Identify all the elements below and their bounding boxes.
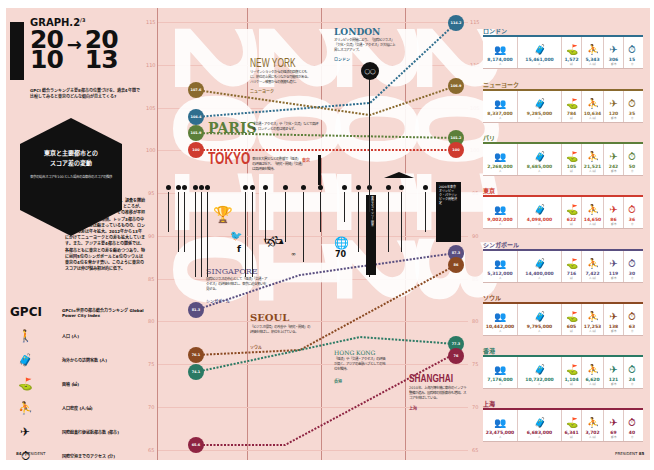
population-icon: 👥 [494, 97, 506, 111]
city-panel-tokyo: 東京 👥9,002,000人 🧳4,098,000人 ⛳622㎢ ⛹14,650… [483, 186, 643, 229]
city-jp-hongkong: 香港 [334, 378, 342, 384]
timeline-event[interactable] [243, 185, 248, 277]
city-title-shanghai: SHANGHAI [409, 372, 453, 384]
city-jp-seoul: ソウル [250, 344, 262, 350]
bubble-paris-2010[interactable]: 101.9 [188, 125, 204, 141]
world-cup-trophy-icon: 🏆 [213, 205, 233, 224]
bubble-newyork-2010[interactable]: 107.6 [188, 82, 204, 98]
population-icon: 👥 [494, 310, 506, 324]
bubble-london-2013[interactable]: 114.2 [448, 15, 464, 31]
airplane-icon: ✈ [609, 43, 617, 57]
panel-city-name: ソウル [483, 293, 643, 302]
timeline-event[interactable] [205, 185, 210, 277]
density-icon: ⛹ [587, 150, 599, 164]
timeline-event[interactable] [283, 185, 288, 242]
area-flag-icon: ⛳ [566, 97, 578, 111]
city-panel-seoul: ソウル 👥10,442,000人 🧳9,795,000人 ⛳605㎢ ⛹17,2… [483, 293, 643, 336]
unit: 人 [538, 329, 541, 333]
unit: 人/㎢ [589, 222, 596, 226]
city-panel-shanghai: 上海 👥23,475,000人 🧳6,683,000人 ⛳6,341㎢ ⛹3,7… [483, 399, 643, 442]
unit: 人/㎢ [589, 435, 596, 439]
population-icon: 👥 [494, 203, 506, 217]
timeline-event[interactable] [386, 185, 391, 252]
panel-city-name: シンガポール [483, 240, 643, 249]
timeline-event[interactable] [250, 185, 255, 277]
bubble-shanghai-2013[interactable]: 76 [448, 348, 464, 364]
timeline-event[interactable] [176, 185, 181, 252]
density-icon: ⛹ [587, 257, 599, 271]
timeline-event[interactable] [423, 185, 428, 232]
page-number-left: 84 PRESIDENT [16, 451, 45, 456]
city-desc-singapore: 国際ビジネスの中心として「経済」「交通・アクセス」の評価を伸ばし、東京に迫る勢い… [206, 277, 268, 292]
timeline-event[interactable] [356, 185, 361, 252]
bubble-seoul-2013[interactable]: 86 [448, 257, 464, 273]
density-icon: ⛹ [587, 416, 599, 430]
bubble-newyork-2013[interactable]: 106.9 [448, 78, 464, 94]
timeline-event[interactable] [193, 185, 198, 277]
stopwatch-icon: ⏱ [628, 363, 636, 377]
density-icon: ⛹ [587, 43, 599, 57]
unit: 人 [538, 116, 541, 120]
timeline-event[interactable] [182, 185, 187, 252]
visitors-icon: 🧳 [534, 43, 546, 57]
unit: 人 [499, 435, 502, 439]
density-icon: ⛹ [587, 203, 599, 217]
timeline-event[interactable] [318, 185, 323, 232]
city-desc-seoul: 「ビジネス環境」の改善や「研究・開発」の評価を伸ばし、順位を上げている。 [250, 325, 312, 335]
city-jp-shanghai: 上海 [409, 405, 417, 411]
bubble-singapore-2010[interactable]: 81.3 [188, 302, 204, 318]
airplane-icon: ✈ [609, 97, 617, 111]
area-flag-icon: ⛳ [566, 150, 578, 164]
city-title-tokyo: TOKYO [208, 150, 250, 168]
line-hongkong [196, 337, 456, 372]
visitors-icon: 🧳 [534, 97, 546, 111]
stopwatch-icon: ⏱ [628, 43, 636, 57]
timeline-event[interactable] [399, 185, 404, 252]
unit: ㎢ [570, 116, 573, 120]
panel-city-name: ロンドン [483, 26, 643, 35]
unit: 分 [631, 169, 634, 173]
panel-city-name: パリ [483, 133, 643, 142]
city-desc-paris: 「交通・アクセス」や「文化・交流」などで高評価。ロンドンとの差は縮まらず。 [252, 122, 322, 132]
stopwatch-icon: ⏱ [628, 257, 636, 271]
area-flag-icon: ⛳ [566, 257, 578, 271]
unit: 分 [631, 116, 634, 120]
city-panel-london: ロンドン 👥8,174,000人 🧳15,461,000人 ⛳1,572㎢ ⛹5… [483, 26, 643, 69]
population-70-label: 70 [335, 250, 346, 259]
bubble-seoul-2010[interactable]: 76.1 [188, 347, 204, 363]
timeline-event[interactable] [301, 185, 306, 262]
timeline-event[interactable] [199, 185, 204, 277]
page-number-right-label: PRESIDENT [615, 451, 637, 456]
unit: 都市 [611, 382, 617, 386]
unit: ㎢ [570, 435, 573, 439]
stopwatch-icon: ⏱ [628, 97, 636, 111]
city-panel-singapore: シンガポール 👥5,312,000人 🧳14,400,000人 ⛳716㎢ ⛹7… [483, 240, 643, 283]
visitors-icon: 🧳 [534, 416, 546, 430]
city-title-seoul: SEOUL [250, 312, 289, 323]
timeline-event[interactable] [166, 185, 171, 232]
population-icon: 👥 [494, 257, 506, 271]
city-desc-london: オリンピック開催により、「国際ビジネス」「文化・交流」「交通・アクセス」が大幅に… [334, 38, 396, 53]
olympic-rings-icon: ◯◯ [361, 62, 379, 80]
bubble-hongkong-2010[interactable]: 74.1 [188, 364, 204, 380]
bubble-shanghai-2010[interactable]: 65.6 [188, 437, 204, 453]
bubble-tokyo-2013[interactable]: 100 [448, 142, 464, 158]
timeline-event[interactable] [342, 185, 347, 222]
city-jp-singapore: シンガポール [206, 298, 230, 304]
line-newyork [196, 86, 456, 115]
twitter-icon: 🐦 [230, 230, 242, 241]
city-title-paris: PARIS [208, 120, 257, 136]
airplane-icon: ✈ [609, 363, 617, 377]
unit: 人 [499, 329, 502, 333]
unit: ㎢ [570, 222, 573, 226]
unit: 人 [538, 382, 541, 386]
unit: 人/㎢ [589, 329, 596, 333]
city-desc-tokyo: 東日本大震災などの影響で「経済」の評価は低下。「研究・開発」「交通」は高評価を維… [252, 157, 302, 172]
bubble-tokyo-2010[interactable]: 100 [188, 142, 204, 158]
unit: 都市 [611, 435, 617, 439]
unit: 人 [499, 116, 502, 120]
density-icon: ⛹ [587, 310, 599, 324]
bubble-london-2010[interactable]: 104.4 [188, 109, 204, 125]
olympic-pole [369, 72, 370, 212]
density-icon: ⛹ [587, 97, 599, 111]
